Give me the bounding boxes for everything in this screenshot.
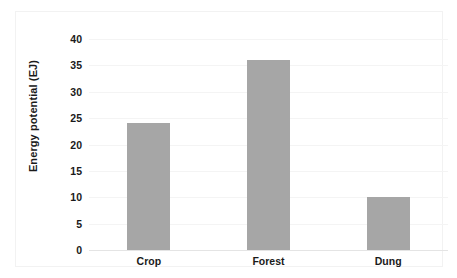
y-axis-title: Energy potential (EJ)	[27, 36, 39, 196]
y-tick-label-15: 15	[70, 165, 82, 177]
bar-chart: Energy potential (EJ) 0510152025303540 C…	[0, 0, 457, 278]
y-tick-label-35: 35	[70, 59, 82, 71]
bar-crop	[127, 123, 170, 250]
y-tick-label-0: 0	[76, 244, 82, 256]
y-tick-label-25: 25	[70, 112, 82, 124]
x-tick-label-forest: Forest	[252, 255, 284, 267]
y-tick-label-10: 10	[70, 191, 82, 203]
y-tick-label-40: 40	[70, 33, 82, 45]
x-tick-label-crop: Crop	[137, 255, 162, 267]
bar-forest	[247, 60, 290, 250]
x-tick-label-dung: Dung	[375, 255, 402, 267]
bars-group	[89, 39, 448, 250]
x-axis-labels: CropForestDung	[89, 255, 448, 273]
chart-frame: Energy potential (EJ) 0510152025303540 C…	[15, 11, 443, 267]
bar-dung	[367, 197, 410, 250]
y-tick-label-5: 5	[76, 218, 82, 230]
gridline-0: 0	[89, 250, 448, 251]
y-tick-label-30: 30	[70, 86, 82, 98]
plot-area: 0510152025303540	[89, 39, 448, 250]
y-tick-label-20: 20	[70, 139, 82, 151]
